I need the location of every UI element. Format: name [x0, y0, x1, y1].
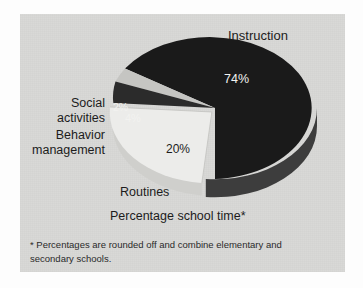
slice-label-routines: Routines [120, 185, 169, 200]
slice-label-social-activities-line1: Social [71, 96, 105, 110]
slice-value-routines: 20% [166, 142, 190, 156]
slice-label-social-activities: Socialactivities [24, 96, 105, 125]
slice-label-instruction: Instruction [228, 29, 288, 44]
slice-value-behavior-management: 4% [125, 112, 141, 124]
slice-label-behavior-management-line2: management [32, 143, 105, 157]
chart-footnote-line1: * Percentages are rounded off and combin… [30, 238, 320, 252]
slice-value-social-activities: 2% [113, 101, 128, 113]
chart-caption: Percentage school time* [110, 209, 246, 223]
slice-value-instruction: 74% [224, 72, 249, 86]
figure-container: Instruction Socialactivities Behaviorman… [0, 0, 363, 288]
slice-label-social-activities-line2: activities [57, 111, 105, 125]
chart-footnote-line2: secondary schools. [30, 252, 320, 266]
slice-label-behavior-management: Behaviormanagement [18, 128, 105, 157]
chart-footnote: * Percentages are rounded off and combin… [30, 238, 320, 266]
slice-label-behavior-management-line1: Behavior [56, 128, 105, 142]
